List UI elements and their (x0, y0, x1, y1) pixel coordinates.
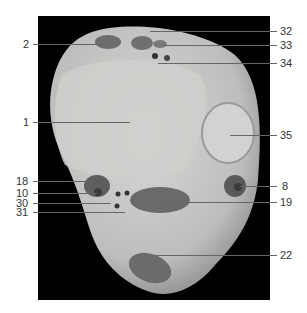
structure-30a (116, 192, 121, 197)
leader-line-31 (33, 212, 125, 213)
structure-10 (94, 188, 102, 196)
leader-line-22 (155, 255, 277, 256)
label-32: 32 (280, 25, 292, 37)
leader-line-18 (33, 181, 95, 182)
label-18: 18 (16, 175, 28, 187)
label-22: 22 (280, 249, 292, 261)
label-33: 33 (280, 39, 292, 51)
leader-line-33 (163, 45, 277, 46)
structure-8-core (234, 183, 242, 191)
leader-line-30 (33, 203, 111, 204)
leader-line-34 (158, 63, 277, 64)
leader-line-8 (240, 186, 277, 187)
structure-2 (95, 35, 121, 49)
label-31: 31 (16, 206, 28, 218)
leader-line-35 (230, 135, 277, 136)
structure-34 (152, 53, 158, 59)
leader-line-19 (162, 202, 277, 203)
leader-line-32 (150, 31, 277, 32)
label-34: 34 (280, 57, 292, 69)
label-19: 19 (280, 196, 292, 208)
structure-33 (153, 40, 167, 48)
label-2: 2 (23, 38, 29, 50)
structure-30b (125, 191, 130, 196)
bone-region-1 (55, 60, 206, 176)
leader-line-1 (33, 122, 130, 123)
leader-line-10 (33, 193, 97, 194)
leader-line-2 (33, 44, 108, 45)
bone-region-35 (202, 103, 254, 163)
cross-section-specimen (0, 0, 307, 313)
label-35: 35 (280, 129, 292, 141)
label-8: 8 (282, 180, 288, 192)
structure-34b (164, 55, 170, 61)
label-1: 1 (23, 116, 29, 128)
structure-31 (115, 204, 120, 209)
structure-32 (131, 36, 153, 50)
structure-19 (130, 187, 190, 213)
